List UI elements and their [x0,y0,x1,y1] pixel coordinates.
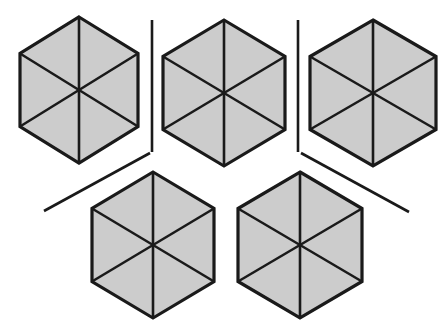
hexagon-figure-canvas [0,0,446,333]
figure-root [0,0,446,333]
